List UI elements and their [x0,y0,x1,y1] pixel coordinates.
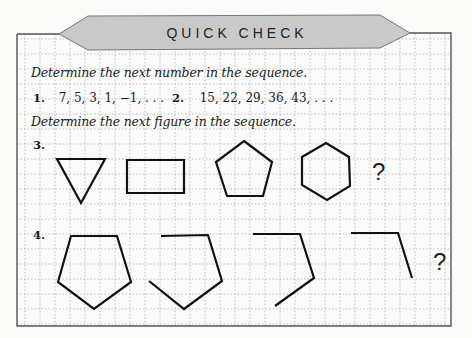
pentagon-three-sides-shape [253,234,314,306]
figure-sequence-instruction: Determine the next figure in the sequenc… [31,114,296,129]
problem-3-number: 3. [33,138,45,152]
problem-2: 2. 15, 22, 29, 36, 43, . . . [172,91,333,105]
quick-check-banner: QUICK CHECK [59,15,410,50]
quick-check-page: QUICK CHECK Determine the next number in… [0,0,472,338]
pentagon-full-shape [58,236,131,309]
problem-1-number: 1. [33,91,45,105]
problem-4-question-mark: ? [433,250,446,274]
hexagon-shape [302,143,350,200]
worksheet-canvas: QUICK CHECK [0,0,472,338]
problem-2-sequence: 15, 22, 29, 36, 43, . . . [200,91,334,105]
problem-2-number: 2. [172,91,184,105]
problem-4-number: 4. [33,228,45,242]
problem-3-question-mark: ? [372,160,385,184]
pentagon-two-sides-shape [351,233,412,278]
banner-title: QUICK CHECK [166,25,307,41]
rectangle-shape [127,160,184,193]
triangle-shape [57,159,105,203]
problem-3-figures [57,141,350,203]
problem-1: 1. 7, 5, 3, 1, −1, . . . [33,91,164,105]
pentagon-shape [216,141,272,196]
number-sequence-instruction: Determine the next number in the sequenc… [31,65,307,80]
problem-1-sequence: 7, 5, 3, 1, −1, . . . [59,91,164,105]
